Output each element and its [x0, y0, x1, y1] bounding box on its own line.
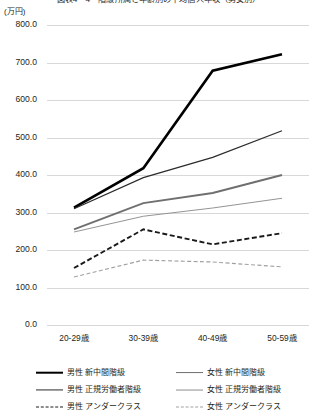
legend-label: 女性 正規労働者階級: [207, 385, 281, 395]
chart-title-clipped: 図表4－4 階級所属と年齢別の平均個人年収（男女別）: [0, 0, 317, 6]
x-axis-tick-label: 40-49歳: [178, 333, 248, 343]
legend-item: 男性 新中間階級: [36, 364, 172, 381]
y-axis-tick-label: 0.0: [0, 320, 37, 329]
legend-label: 男性 新中間階級: [67, 368, 125, 378]
series-line: [74, 54, 282, 207]
series-line: [74, 198, 282, 232]
legend-label: 女性 新中間階級: [207, 368, 265, 378]
legend-label: 男性 正規労働者階級: [67, 385, 141, 395]
page-title: 図表4－4 階級所属と年齢別の平均個人年収（男女別）: [0, 0, 317, 6]
chart-legend: 男性 新中間階級男性 正規労働者階級男性 アンダークラス 女性 新中間階級女性 …: [36, 364, 308, 416]
series-line: [74, 131, 282, 209]
legend-item: 女性 正規労働者階級: [176, 381, 312, 398]
x-axis-tick-label: 20-29歳: [39, 333, 109, 343]
legend-label: 女性 アンダークラス: [207, 402, 281, 412]
legend-line-swatch: [176, 402, 203, 412]
legend-column-male: 男性 新中間階級男性 正規労働者階級男性 アンダークラス: [36, 364, 172, 415]
legend-item: 男性 アンダークラス: [36, 398, 172, 415]
chart-figure: 図表4－4 階級所属と年齢別の平均個人年収（男女別） (万円) 800.0700…: [0, 0, 317, 420]
series-lines: [47, 25, 309, 325]
gridline: [47, 325, 309, 326]
y-axis-tick-label: 200.0: [0, 245, 37, 254]
y-axis-tick-label: 500.0: [0, 133, 37, 142]
legend-column-female: 女性 新中間階級女性 正規労働者階級女性 アンダークラス: [176, 364, 312, 415]
legend-line-swatch: [36, 368, 63, 378]
legend-item: 女性 アンダークラス: [176, 398, 312, 415]
legend-line-swatch: [176, 385, 203, 395]
y-axis-tick-label: 100.0: [0, 283, 37, 292]
legend-label: 男性 アンダークラス: [67, 402, 141, 412]
y-axis-unit-label: (万円): [4, 7, 25, 17]
y-axis-tick-label: 800.0: [0, 20, 37, 29]
x-axis-tick-label: 30-39歳: [108, 333, 178, 343]
y-axis-tick-label: 700.0: [0, 58, 37, 67]
legend-item: 男性 正規労働者階級: [36, 381, 172, 398]
legend-line-swatch: [176, 368, 203, 378]
series-line: [74, 229, 282, 268]
series-line: [74, 260, 282, 277]
legend-line-swatch: [36, 402, 63, 412]
legend-item: 女性 新中間階級: [176, 364, 312, 381]
y-axis-tick-label: 300.0: [0, 208, 37, 217]
x-axis-tick-label: 50-59歳: [247, 333, 317, 343]
y-axis-tick-label: 400.0: [0, 170, 37, 179]
y-axis-tick-label: 600.0: [0, 95, 37, 104]
legend-line-swatch: [36, 385, 63, 395]
plot-area: 800.0700.0600.0500.0400.0300.0200.0100.0…: [47, 25, 309, 325]
